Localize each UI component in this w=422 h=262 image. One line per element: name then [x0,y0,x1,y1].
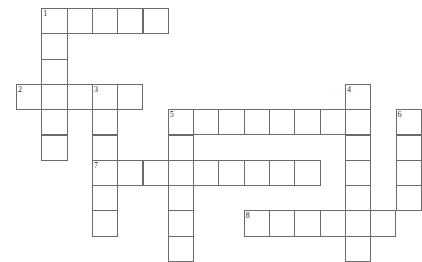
cell-letter [42,34,66,58]
cell-letter [321,110,345,134]
cell-letter [397,161,421,185]
cell-letter [93,211,117,235]
cell-letter [42,85,66,109]
cell-letter [346,85,370,109]
cell-r8c6[interactable] [168,210,194,236]
cell-r6c5[interactable] [143,160,169,186]
cell-letter [245,161,269,185]
cell-r0c5[interactable] [143,8,169,34]
cell-r8c13[interactable] [345,210,371,236]
cell-r8c11[interactable] [294,210,320,236]
cell-letter [169,211,193,235]
cell-letter [169,237,193,261]
cell-letter [42,9,66,33]
cell-letter [270,161,294,185]
cell-letter [118,9,142,33]
cell-r1c1[interactable] [41,33,67,59]
cell-r0c2[interactable] [67,8,93,34]
cell-letter [346,237,370,261]
cell-r6c8[interactable] [218,160,244,186]
cell-letter [295,211,319,235]
cell-r8c14[interactable] [370,210,396,236]
cell-r6c7[interactable] [193,160,219,186]
cell-r4c7[interactable] [193,109,219,135]
cell-r4c6[interactable]: 5 [168,109,194,135]
cell-r5c6[interactable] [168,135,194,161]
cell-r4c12[interactable] [320,109,346,135]
cell-r0c4[interactable] [117,8,143,34]
cell-r7c15[interactable] [396,185,422,211]
cell-letter [194,161,218,185]
cell-r3c0[interactable]: 2 [16,84,42,110]
cell-letter [93,110,117,134]
cell-letter [346,136,370,160]
cell-letter [295,161,319,185]
cell-letter [245,211,269,235]
cell-r0c1[interactable]: 1 [41,8,67,34]
cell-letter [93,136,117,160]
cell-r8c10[interactable] [269,210,295,236]
cell-r4c15[interactable]: 6 [396,109,422,135]
cell-r7c3[interactable] [92,185,118,211]
cell-r8c9[interactable]: 8 [244,210,270,236]
cell-letter [144,9,168,33]
cell-r4c1[interactable] [41,109,67,135]
cell-letter [219,110,243,134]
cell-r9c13[interactable] [345,236,371,262]
cell-letter [270,211,294,235]
cell-r4c11[interactable] [294,109,320,135]
cell-r6c13[interactable] [345,160,371,186]
cell-letter [295,110,319,134]
cell-r5c1[interactable] [41,135,67,161]
cell-letter [68,85,92,109]
cell-r3c2[interactable] [67,84,93,110]
cell-r5c13[interactable] [345,135,371,161]
cell-r0c3[interactable] [92,8,118,34]
cell-r4c10[interactable] [269,109,295,135]
cell-letter [169,186,193,210]
cell-r4c3[interactable] [92,109,118,135]
cell-letter [93,9,117,33]
cell-letter [371,211,395,235]
cell-r6c15[interactable] [396,160,422,186]
cell-r7c6[interactable] [168,185,194,211]
cell-letter [42,110,66,134]
cell-letter [169,136,193,160]
cell-r6c6[interactable] [168,160,194,186]
cell-r7c13[interactable] [345,185,371,211]
cell-r2c1[interactable] [41,59,67,85]
cell-letter [42,60,66,84]
cell-letter [68,9,92,33]
cell-r3c1[interactable] [41,84,67,110]
cell-r6c9[interactable] [244,160,270,186]
cell-r8c3[interactable] [92,210,118,236]
cell-letter [93,85,117,109]
cell-r3c13[interactable]: 4 [345,84,371,110]
cell-r5c3[interactable] [92,135,118,161]
cell-r5c15[interactable] [396,135,422,161]
cell-letter [169,110,193,134]
cell-r8c12[interactable] [320,210,346,236]
cell-r4c9[interactable] [244,109,270,135]
cell-r6c11[interactable] [294,160,320,186]
cell-r3c3[interactable]: 3 [92,84,118,110]
cell-r6c10[interactable] [269,160,295,186]
cell-r6c4[interactable] [117,160,143,186]
cell-letter [93,161,117,185]
cell-r9c6[interactable] [168,236,194,262]
cell-letter [346,110,370,134]
cell-letter [17,85,41,109]
cell-letter [346,186,370,210]
cell-r3c4[interactable] [117,84,143,110]
cell-letter [118,161,142,185]
cell-letter [219,161,243,185]
cell-letter [270,110,294,134]
cell-r4c8[interactable] [218,109,244,135]
cell-letter [118,85,142,109]
cell-letter [245,110,269,134]
cell-r6c3[interactable]: 7 [92,160,118,186]
cell-letter [42,136,66,160]
cell-letter [93,186,117,210]
cell-r4c13[interactable] [345,109,371,135]
